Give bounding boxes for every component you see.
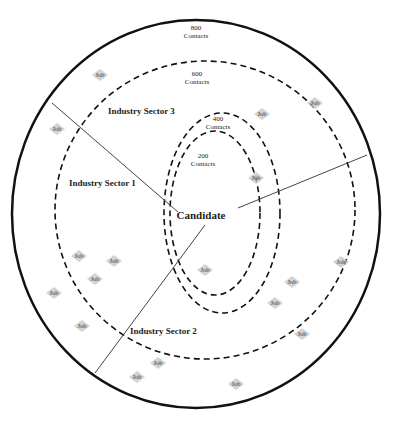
job-label: Job [153,359,162,366]
job-label: Job [251,174,260,181]
job-marker: Job [87,273,103,285]
ring-label-800-unit: Contacts [184,32,209,40]
ring-label-600-value: 600 [192,70,203,78]
ring-label-200-unit: Contacts [191,160,216,168]
job-label: Job [310,99,319,106]
ring-label-200-value: 200 [198,152,209,160]
job-marker: Job [46,287,62,299]
job-markers: JobJobJobJobJobJobJobJobJobJobJobJobJobJ… [46,69,349,390]
career-network-diagram: 800 Contacts 600 Contacts 400 Contacts 2… [0,0,393,423]
job-label: Job [297,330,306,337]
job-marker: Job [307,97,323,109]
job-marker: Job [74,320,90,332]
job-marker: Job [106,255,122,267]
sector-label-3: Industry Sector 3 [108,106,175,116]
job-label: Job [270,299,279,306]
job-label: Job [77,322,86,329]
job-marker: Job [228,378,244,390]
job-label: Job [231,380,240,387]
job-marker: Job [49,123,65,135]
job-label: Job [336,258,345,265]
job-label: Job [200,266,209,273]
job-label: Job [52,125,61,132]
job-marker: Job [333,256,349,268]
sector-label-1: Industry Sector 1 [69,178,136,188]
ring-label-400-unit: Contacts [206,123,231,131]
job-label: Job [90,275,99,282]
job-marker: Job [284,276,300,288]
sector-divider-1-3 [52,103,178,212]
job-marker: Job [197,264,213,276]
job-marker: Job [150,357,166,369]
sector-divider-1-2 [95,225,205,373]
job-label: Job [287,278,296,285]
job-marker: Job [71,250,87,262]
job-label: Job [49,289,58,296]
job-label: Job [257,110,266,117]
job-marker: Job [92,69,108,81]
job-marker: Job [254,108,270,120]
job-label: Job [132,373,141,380]
candidate-label: Candidate [177,209,226,221]
job-marker: Job [129,371,145,383]
job-marker: Job [267,297,283,309]
ring-label-800-value: 800 [191,24,202,32]
job-marker: Job [248,172,264,184]
job-marker: Job [294,328,310,340]
ring-label-400-value: 400 [213,115,224,123]
job-label: Job [109,257,118,264]
sector-label-2: Industry Sector 2 [130,326,197,336]
job-label: Job [74,252,83,259]
ring-label-600-unit: Contacts [185,78,210,86]
job-label: Job [95,71,104,78]
